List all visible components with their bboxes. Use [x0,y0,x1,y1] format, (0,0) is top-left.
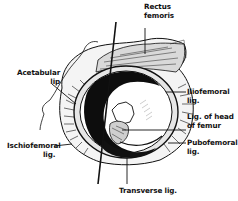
label-acetabular-lip: Acetabular lip [17,69,60,86]
label-pubofemoral-lig: Pubofemoral lig. [187,139,238,156]
label-line: lip [17,78,60,87]
label-transverse-lig: Transverse lig. [119,187,177,196]
label-line: lig. [187,97,230,106]
hip-joint-diagram: Rectus femoris Acetabular lip Iliofemora… [0,0,238,201]
label-rectus-femoris: Rectus femoris [144,3,174,20]
label-ischiofemoral-lig: Ischiofemoral lig. [7,142,61,159]
label-line: lig. [187,148,238,157]
label-line: femoris [144,12,174,21]
label-line: Transverse lig. [119,187,177,196]
label-iliofemoral-lig: Iliofemoral lig. [187,88,230,105]
label-line: lig. [7,151,61,160]
label-line: of femur [187,122,234,131]
label-lig-of-head-of-femur: Lig. of head of femur [187,113,234,130]
